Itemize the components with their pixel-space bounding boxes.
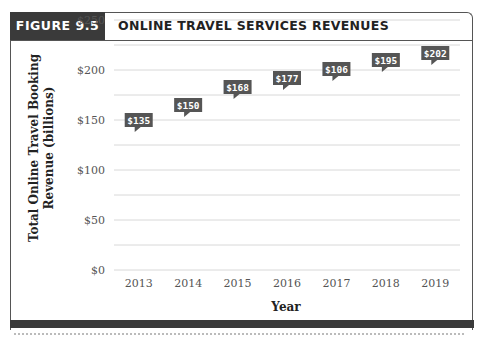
airplane-icon [422,247,447,273]
y-tick-label: $50 [84,214,105,227]
airplane-icon [175,122,200,148]
data-label-text: $195 [374,55,397,66]
airplane-icon [324,172,349,198]
airplane-icon [274,172,299,198]
airplane-icon [225,222,250,248]
airplane-icon [126,172,151,198]
x-tick-label: 2016 [273,277,301,290]
airplane-icon [126,222,151,248]
airplane-icon [422,72,447,98]
pictograph-column-2016 [274,72,299,273]
airplane-icon [225,172,250,198]
airplane-icon [274,247,299,273]
airplane-icon [126,247,151,273]
pictograph-column-2019 [422,47,447,273]
x-tick-labels: 2013201420152016201720182019 [125,277,450,290]
y-tick-labels: $0$50$100$150$200$250 [77,14,105,277]
airplane-icon [225,247,250,273]
airplane-icon [225,147,250,173]
airplane-icon [324,97,349,123]
pictograph-column-2018 [373,72,398,273]
x-tick-label: 2013 [125,277,153,290]
x-tick-label: 2015 [224,277,252,290]
data-label: $177 [273,71,301,90]
pictograph-column-2017 [324,72,349,273]
airplane-icon [373,222,398,248]
chart: $0$50$100$150$200$250 $135$150$168$177$1… [0,0,485,341]
y-tick-label: $250 [77,14,105,27]
airplane-icon [422,222,447,248]
airplane-icon [274,147,299,173]
airplane-icon [175,147,200,173]
x-tick-label: 2018 [372,277,400,290]
data-label: $168 [224,80,252,99]
airplane-icon [373,122,398,148]
data-label-text: $202 [424,48,447,59]
x-tick-label: 2017 [322,277,350,290]
airplane-icon [175,172,200,198]
airplane-icon [324,222,349,248]
airplane-icon [225,197,250,223]
airplane-icon [324,197,349,223]
airplane-icon [126,147,151,173]
airplane-icon [274,97,299,123]
airplane-icon [175,247,200,273]
airplane-icon [324,122,349,148]
airplane-icon [274,122,299,148]
data-label-text: $135 [127,115,150,126]
y-axis-label-line2: Revenue (billions) [42,87,56,210]
airplane-icon [175,197,200,223]
data-label: $106 [322,62,350,81]
y-tick-label: $100 [77,164,105,177]
figure-caption-cutoff [14,333,464,338]
y-tick-label: $200 [77,64,105,77]
airplane-icon [422,172,447,198]
x-tick-label: 2019 [421,277,449,290]
airplane-icon [373,197,398,223]
data-label-text: $106 [325,64,348,75]
y-tick-label: $150 [77,114,105,127]
airplane-icon [274,197,299,223]
airplane-icon [225,122,250,148]
airplane-icon [274,222,299,248]
data-label-text: $150 [177,100,200,111]
airplane-icon [373,72,398,98]
data-label: $150 [174,98,202,117]
airplane-icon [175,222,200,248]
y-tick-label: $0 [91,264,105,277]
airplane-icon [373,147,398,173]
airplane-icon [373,172,398,198]
airplane-icon [324,247,349,273]
y-axis-label-line1: Total Online Travel Booking [27,53,41,242]
airplane-icon [373,97,398,123]
x-tick-label: 2014 [174,277,202,290]
data-label: $195 [372,53,400,72]
data-label: $135 [125,113,153,132]
data-label-text: $168 [226,82,249,93]
airplane-icon [373,247,398,273]
airplane-icon [422,122,447,148]
airplane-icon [422,147,447,173]
data-labels: $135$150$168$177$106$195$202 [125,46,450,132]
airplane-icon [225,97,250,123]
data-label: $202 [421,46,449,65]
x-axis-label: Year [270,300,301,314]
grid-lines [114,20,460,270]
airplane-icon [422,97,447,123]
airplane-icon [126,197,151,223]
airplane-icon [324,147,349,173]
data-label-text: $177 [276,73,299,84]
figure-bottom-bar [10,320,474,328]
airplane-icon [422,197,447,223]
pictograph-column-2015 [225,97,250,273]
